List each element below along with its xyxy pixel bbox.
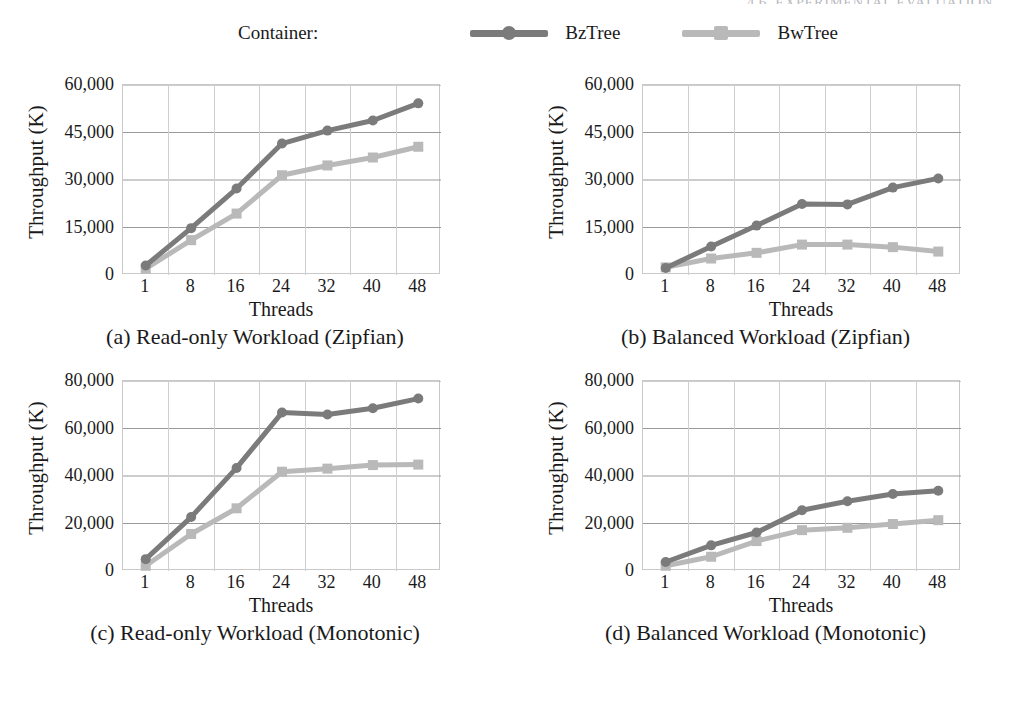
- y-tick-label: 15,000: [585, 216, 635, 237]
- legend-item-bwtree: BwTree: [682, 22, 838, 44]
- chart-caption-a: (a) Read-only Workload (Zipfian): [0, 324, 510, 350]
- legend-label-bwtree: BwTree: [777, 22, 838, 44]
- chart-caption-c: (c) Read-only Workload (Monotonic): [0, 620, 510, 646]
- y-tick-label: 30,000: [585, 169, 635, 190]
- y-tick-label: 20,000: [65, 512, 115, 533]
- y-tick-label: 20,000: [585, 512, 635, 533]
- plot-area-a: [122, 84, 440, 274]
- square-marker-icon: [714, 26, 728, 40]
- x-tick-label: 40: [883, 572, 901, 593]
- y-axis-ticks-a: 015,00030,00045,00060,000: [34, 84, 120, 274]
- x-tick-label: 8: [706, 572, 715, 593]
- chart-panel-a: Throughput (K) 015,00030,00045,00060,000…: [0, 70, 510, 366]
- x-axis-ticks-a: 181624324048: [122, 276, 440, 300]
- legend-swatch-bwtree: [682, 30, 760, 37]
- running-head: 4.6. EXPERIMENTAL EVALUATION: [747, 0, 993, 4]
- chart-panel-b: Throughput (K) 015,00030,00045,00060,000…: [510, 70, 1021, 366]
- plot-area-c: [122, 380, 440, 570]
- x-tick-label: 48: [408, 276, 426, 297]
- x-axis-ticks-b: 181624324048: [642, 276, 960, 300]
- y-tick-label: 40,000: [65, 465, 115, 486]
- x-tick-label: 48: [928, 572, 946, 593]
- chart-caption-b: (b) Balanced Workload (Zipfian): [510, 324, 1021, 350]
- x-tick-label: 1: [660, 572, 669, 593]
- x-axis-title-b: Threads: [642, 298, 960, 321]
- chart-legend: Container: BzTree BwTree: [0, 22, 1021, 44]
- y-axis-ticks-c: 020,00040,00060,00080,000: [34, 380, 120, 570]
- y-tick-label: 60,000: [585, 417, 635, 438]
- x-tick-label: 16: [227, 572, 245, 593]
- circle-marker-icon: [502, 26, 516, 40]
- y-tick-label: 30,000: [65, 169, 115, 190]
- x-tick-label: 40: [363, 572, 381, 593]
- chart-panel-d: Throughput (K) 020,00040,00060,00080,000…: [510, 366, 1021, 662]
- y-tick-label: 80,000: [65, 370, 115, 391]
- x-tick-label: 24: [792, 276, 810, 297]
- plot-area-b: [642, 84, 960, 274]
- y-axis-ticks-d: 020,00040,00060,00080,000: [554, 380, 640, 570]
- x-tick-label: 8: [186, 572, 195, 593]
- y-tick-label: 45,000: [585, 121, 635, 142]
- y-tick-label: 45,000: [65, 121, 115, 142]
- y-tick-label: 0: [105, 560, 114, 581]
- x-tick-label: 8: [186, 276, 195, 297]
- x-tick-label: 24: [272, 276, 290, 297]
- y-tick-label: 60,000: [65, 74, 115, 95]
- legend-label-bztree: BzTree: [565, 22, 620, 44]
- x-axis-title-c: Threads: [122, 594, 440, 617]
- x-tick-label: 16: [227, 276, 245, 297]
- y-tick-label: 0: [625, 264, 634, 285]
- chart-panel-c: Throughput (K) 020,00040,00060,00080,000…: [0, 366, 510, 662]
- y-tick-label: 0: [625, 560, 634, 581]
- x-tick-label: 48: [408, 572, 426, 593]
- x-tick-label: 1: [140, 276, 149, 297]
- y-tick-label: 60,000: [585, 74, 635, 95]
- x-axis-ticks-c: 181624324048: [122, 572, 440, 596]
- legend-title: Container:: [238, 22, 318, 44]
- y-tick-label: 0: [105, 264, 114, 285]
- x-tick-label: 1: [660, 276, 669, 297]
- x-tick-label: 32: [837, 572, 855, 593]
- x-axis-ticks-d: 181624324048: [642, 572, 960, 596]
- chart-grid: Throughput (K) 015,00030,00045,00060,000…: [0, 70, 1021, 702]
- x-tick-label: 16: [747, 276, 765, 297]
- x-tick-label: 48: [928, 276, 946, 297]
- x-tick-label: 32: [317, 276, 335, 297]
- x-tick-label: 1: [140, 572, 149, 593]
- x-tick-label: 16: [747, 572, 765, 593]
- plot-area-d: [642, 380, 960, 570]
- legend-swatch-bztree: [470, 30, 548, 37]
- x-tick-label: 32: [837, 276, 855, 297]
- x-axis-title-d: Threads: [642, 594, 960, 617]
- x-tick-label: 24: [272, 572, 290, 593]
- y-tick-label: 60,000: [65, 417, 115, 438]
- x-tick-label: 24: [792, 572, 810, 593]
- x-tick-label: 40: [883, 276, 901, 297]
- chart-caption-d: (d) Balanced Workload (Monotonic): [510, 620, 1021, 646]
- x-tick-label: 32: [317, 572, 335, 593]
- y-tick-label: 40,000: [585, 465, 635, 486]
- legend-item-bztree: BzTree: [470, 22, 620, 44]
- x-tick-label: 8: [706, 276, 715, 297]
- y-tick-label: 80,000: [585, 370, 635, 391]
- y-tick-label: 15,000: [65, 216, 115, 237]
- x-tick-label: 40: [363, 276, 381, 297]
- y-axis-ticks-b: 015,00030,00045,00060,000: [554, 84, 640, 274]
- x-axis-title-a: Threads: [122, 298, 440, 321]
